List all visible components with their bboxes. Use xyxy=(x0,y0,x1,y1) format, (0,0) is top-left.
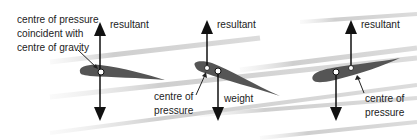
cp-marker-right xyxy=(349,66,354,71)
label-cp-right-line2: pressure xyxy=(365,106,404,118)
cg-marker-middle xyxy=(215,68,221,74)
airfoil-left xyxy=(80,65,165,80)
label-cp-cg-line3: centre of gravity xyxy=(17,41,89,53)
cg-marker-right xyxy=(333,69,339,75)
label-cp-middle-line1: centre of xyxy=(154,90,193,102)
label-cp-middle-line2: pressure xyxy=(154,104,193,116)
label-cp-right-line1: centre of xyxy=(365,92,404,104)
resultant-arrow-right xyxy=(345,20,357,68)
cp-cg-marker-left xyxy=(98,69,104,75)
label-cp-cg-line2: coincident with xyxy=(17,27,83,39)
leader-line-right xyxy=(355,75,364,93)
label-resultant-left: resultant xyxy=(110,18,149,30)
cp-marker-middle xyxy=(205,66,210,71)
label-resultant-right: resultant xyxy=(361,18,400,30)
label-weight-middle: weight xyxy=(224,92,253,104)
label-resultant-middle: resultant xyxy=(217,18,256,30)
label-cp-cg-line1: centre of pressure xyxy=(17,13,99,25)
